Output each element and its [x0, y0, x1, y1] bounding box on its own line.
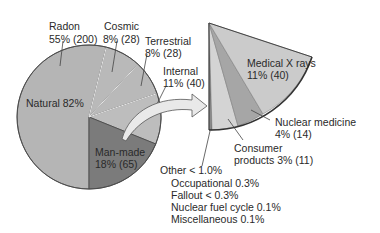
label-nuclear-medicine-name: Nuclear medicine [275, 116, 356, 128]
label-other: Other < 1.0% [160, 164, 222, 176]
label-internal-value: 11% (40) [163, 77, 205, 89]
label-cosmic-value: 8% (28) [103, 33, 140, 45]
label-natural: Natural 82% [26, 97, 84, 109]
label-terrestrial-name: Terrestrial [145, 35, 191, 47]
label-consumer-value: products 3% (11) [234, 154, 313, 166]
label-consumer-name: Consumer [234, 142, 282, 154]
label-nuclear-fuel-cycle: Nuclear fuel cycle 0.1% [171, 201, 281, 213]
label-man-made-name: Man-made [95, 146, 145, 158]
label-fallout: Fallout < 0.3% [171, 189, 238, 201]
label-cosmic-name: Cosmic [104, 20, 139, 32]
label-man-made-value: 18% (65) [95, 158, 138, 170]
label-medical-x-rays-name: Medical X rays [247, 57, 316, 69]
label-radon-value: 55% (200) [49, 33, 97, 45]
label-radon-name: Radon [49, 20, 80, 32]
label-terrestrial-value: 8% (28) [145, 47, 182, 59]
label-medical-x-rays-value: 11% (40) [247, 69, 289, 81]
label-nuclear-medicine-value: 4% (14) [275, 128, 312, 140]
label-internal-name: Internal [163, 65, 198, 77]
label-occupational: Occupational 0.3% [171, 177, 259, 189]
label-miscellaneous: Miscellaneous 0.1% [171, 213, 264, 225]
